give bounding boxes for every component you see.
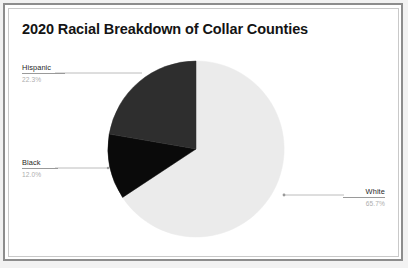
pie-label-hispanic[interactable]: Hispanic 22.3% (22, 63, 65, 83)
pie-label-black[interactable]: Black 12.0% (22, 158, 58, 178)
figure-container: 2020 Racial Breakdown of Collar Counties… (0, 0, 408, 268)
leader-dot-white (283, 194, 286, 197)
pie-label-white-name: White (343, 187, 385, 198)
pie-chart (9, 9, 398, 256)
pie-slice-hispanic[interactable] (109, 61, 196, 149)
pie-label-black-name: Black (22, 158, 58, 169)
pie-label-hispanic-name: Hispanic (22, 63, 65, 74)
leader-dot-black (107, 167, 109, 169)
pie-label-white[interactable]: White 65.7% (343, 187, 385, 207)
pie-label-hispanic-value: 22.3% (22, 74, 65, 83)
pie-label-black-value: 12.0% (22, 169, 58, 178)
pie-label-white-value: 65.7% (343, 198, 385, 207)
chart-plot-area: 2020 Racial Breakdown of Collar Counties… (9, 9, 398, 256)
